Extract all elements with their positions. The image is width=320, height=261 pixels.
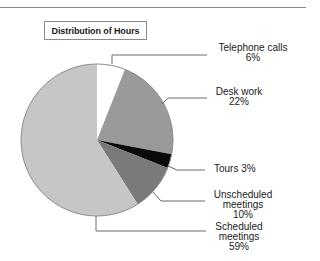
pie-slices (21, 64, 173, 216)
leader-desk-work (162, 98, 207, 104)
label-desk-work: Desk work 22% (210, 87, 268, 107)
leader-tours (168, 166, 205, 170)
label-unscheduled-meetings: Unscheduled meetings 10% (210, 190, 276, 220)
leader-unscheduled (153, 192, 205, 201)
label-telephone-calls: Telephone calls 6% (208, 43, 298, 63)
label-tours: Tours 3% (214, 164, 262, 174)
leader-scheduled (96, 216, 206, 231)
leader-telephone (112, 55, 207, 64)
label-scheduled-meetings: Scheduled meetings 59% (210, 222, 268, 252)
